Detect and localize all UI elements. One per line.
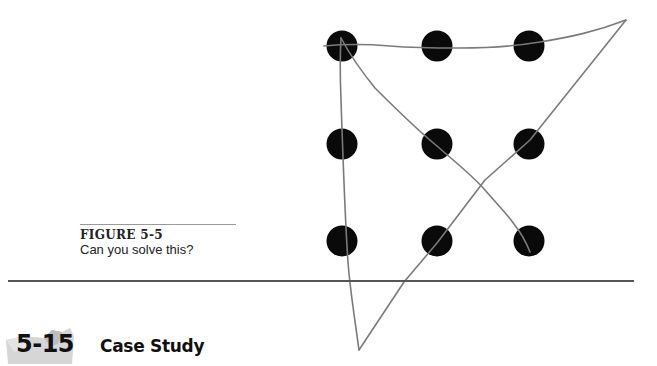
caption-divider bbox=[80, 224, 236, 225]
dot-r1-c3 bbox=[514, 31, 545, 62]
dot-grid bbox=[327, 31, 545, 257]
solution-line-left bbox=[340, 38, 359, 350]
figure-label: FIGURE 5-5 bbox=[80, 228, 163, 242]
dot-r1-c2 bbox=[422, 31, 453, 62]
figure-caption: Can you solve this? bbox=[80, 242, 193, 257]
solution-line-top bbox=[324, 20, 626, 48]
solution-line-diagonal-up bbox=[359, 20, 626, 350]
dot-r3-c2 bbox=[422, 226, 453, 257]
nine-dot-puzzle-figure bbox=[0, 0, 657, 366]
dot-r2-c3 bbox=[514, 129, 545, 160]
solution-path bbox=[324, 20, 626, 350]
section-title: Case Study bbox=[100, 336, 204, 356]
solution-line-diagonal-down bbox=[341, 38, 530, 252]
section-number: 5-15 bbox=[16, 330, 74, 358]
dot-r3-c1 bbox=[327, 226, 358, 257]
page-divider bbox=[8, 280, 634, 282]
